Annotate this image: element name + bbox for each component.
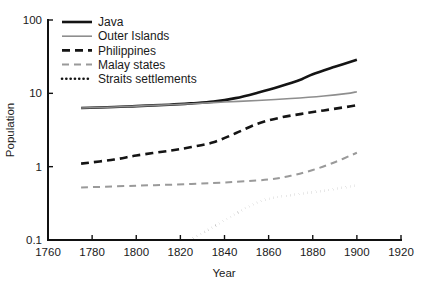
data-series-group	[81, 60, 357, 240]
legend-label-outer-islands: Outer Islands	[98, 29, 169, 43]
x-tick-label-1920: 1920	[388, 246, 414, 258]
legend-label-philippines: Philippines	[98, 44, 156, 58]
x-tick-label-1820: 1820	[168, 246, 194, 258]
series-line-straits-settlements	[189, 185, 357, 240]
x-tick-label-1780: 1780	[79, 246, 105, 258]
x-axis-title: Year	[212, 267, 235, 279]
x-tick-label-1760: 1760	[35, 246, 61, 258]
x-axis-tick-labels: 176017801800182018401860188019001920	[35, 246, 414, 258]
x-tick-label-1880: 1880	[300, 246, 326, 258]
x-tick-label-1840: 1840	[212, 246, 238, 258]
y-tick-label-0.1: 0.1	[26, 234, 42, 246]
x-tick-label-1860: 1860	[256, 246, 282, 258]
legend-label-straits-settlements: Straits settlements	[98, 72, 197, 86]
y-tick-label-100: 100	[23, 14, 42, 26]
x-tick-label-1900: 1900	[344, 246, 370, 258]
x-tick-label-1800: 1800	[123, 246, 149, 258]
y-axis-title: Population	[4, 103, 16, 157]
legend-label-java: Java	[98, 15, 124, 29]
series-line-philippines	[81, 105, 357, 163]
chart-canvas: 176017801800182018401860188019001920 0.1…	[0, 0, 425, 287]
y-tick-label-10: 10	[29, 87, 42, 99]
chart-legend: JavaOuter IslandsPhilippinesMalay states…	[62, 15, 197, 86]
y-axis-tick-labels: 0.1110100	[23, 14, 42, 246]
population-line-chart: 176017801800182018401860188019001920 0.1…	[0, 0, 425, 287]
y-tick-label-1: 1	[36, 161, 42, 173]
legend-label-malay-states: Malay states	[98, 58, 165, 72]
